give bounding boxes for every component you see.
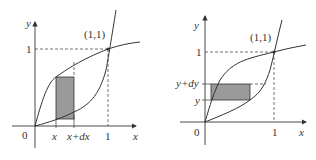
right-y-tick-1: 1 [196,47,202,58]
upper-curve [205,45,306,122]
left-origin-label: 0 [22,130,28,141]
right-point-label: (1,1) [250,32,271,43]
left-x-tick-x-dx: x+dx [67,131,90,142]
right-origin-label: 0 [194,127,200,138]
right-x-tick-1: 1 [272,127,278,138]
right-y-axis-label: y [194,20,199,31]
right-x-axis-label: x [299,127,304,138]
left-x-axis-label: x [133,131,138,142]
left-point-label: (1,1) [84,29,105,40]
right-y-tick-y: y [195,95,200,106]
left-x-tick-x: x [52,131,57,142]
left-y-axis-label: y [26,18,31,29]
left-figure [12,10,140,148]
diagram-canvas [0,0,316,160]
right-y-tick-y-dy: y+dy [176,78,199,89]
left-x-tick-1: 1 [105,131,111,142]
left-y-tick-1: 1 [26,44,32,55]
vertical-strip [56,77,74,119]
upper-curve [35,42,140,126]
